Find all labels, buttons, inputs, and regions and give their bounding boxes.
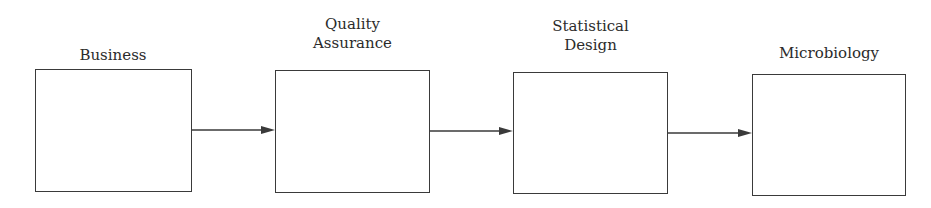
arrow-statistical-design-to-microbiology (668, 129, 752, 137)
arrow-business-to-quality-assurance (192, 126, 275, 134)
arrow-quality-assurance-to-statistical-design (430, 127, 513, 135)
edge-arrows (0, 0, 931, 208)
